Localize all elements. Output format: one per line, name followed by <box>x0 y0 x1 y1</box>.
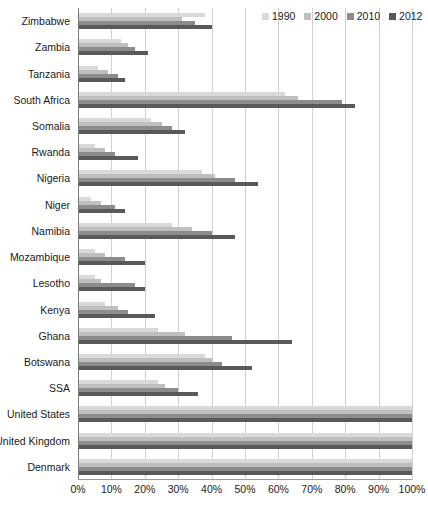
bar-group <box>78 454 412 480</box>
bar-group <box>78 60 412 86</box>
x-tick-60: 60% <box>268 484 289 495</box>
bar-denmark-2012 <box>78 471 412 475</box>
x-tick-40: 40% <box>201 484 222 495</box>
category-label-botswana: Botswana <box>24 357 70 368</box>
bar-united-states-2012 <box>78 418 412 422</box>
bar-nigeria-2012 <box>78 182 258 186</box>
gridline-100 <box>412 8 413 480</box>
bar-group <box>78 34 412 60</box>
bar-lesotho-2012 <box>78 287 145 291</box>
bar-mozambique-2012 <box>78 261 145 265</box>
bar-group <box>78 323 412 349</box>
legend-swatch-1990 <box>262 13 269 20</box>
bar-niger-2012 <box>78 209 125 213</box>
category-label-kenya: Kenya <box>40 304 70 315</box>
x-tick-90: 90% <box>368 484 389 495</box>
legend-swatch-2012 <box>389 13 396 20</box>
bar-group <box>78 244 412 270</box>
bar-group <box>78 139 412 165</box>
bar-namibia-2012 <box>78 235 235 239</box>
legend-entry-2010: 2010 <box>347 11 380 22</box>
legend-entry-2012: 2012 <box>389 11 422 22</box>
x-tick-80: 80% <box>335 484 356 495</box>
category-labels: ZimbabweZambiaTanzaniaSouth AfricaSomali… <box>0 8 74 480</box>
bar-zimbabwe-2012 <box>78 25 212 29</box>
category-label-tanzania: Tanzania <box>28 68 70 79</box>
x-tick-30: 30% <box>168 484 189 495</box>
bar-chart: 1990200020102012 ZimbabweZambiaTanzaniaS… <box>0 0 428 508</box>
legend-label-2010: 2010 <box>357 11 380 22</box>
bar-kenya-2012 <box>78 314 155 318</box>
bar-rwanda-2012 <box>78 156 138 160</box>
category-label-somalia: Somalia <box>32 121 70 132</box>
category-label-lesotho: Lesotho <box>33 278 70 289</box>
category-label-denmark: Denmark <box>27 462 70 473</box>
plot-area <box>78 8 412 480</box>
bar-group <box>78 192 412 218</box>
category-label-niger: Niger <box>45 199 70 210</box>
legend-entry-1990: 1990 <box>262 11 295 22</box>
category-label-united-states: United States <box>7 409 70 420</box>
x-tick-20: 20% <box>134 484 155 495</box>
bar-botswana-2012 <box>78 366 252 370</box>
category-label-namibia: Namibia <box>31 226 70 237</box>
bar-zambia-2012 <box>78 51 148 55</box>
legend-label-2012: 2012 <box>399 11 422 22</box>
bar-ssa-2012 <box>78 392 198 396</box>
legend-swatch-2010 <box>347 13 354 20</box>
legend-label-2000: 2000 <box>314 11 337 22</box>
category-label-zambia: Zambia <box>35 42 70 53</box>
bar-group <box>78 401 412 427</box>
legend-entry-2000: 2000 <box>304 11 337 22</box>
x-tick-0: 0% <box>70 484 85 495</box>
bar-ghana-2012 <box>78 340 292 344</box>
legend-label-1990: 1990 <box>272 11 295 22</box>
x-tick-70: 70% <box>301 484 322 495</box>
y-axis-line <box>78 8 79 480</box>
x-tick-10: 10% <box>101 484 122 495</box>
bar-group <box>78 87 412 113</box>
bar-group <box>78 428 412 454</box>
category-label-zimbabwe: Zimbabwe <box>22 16 70 27</box>
bar-united-kingdom-2012 <box>78 445 412 449</box>
category-label-mozambique: Mozambique <box>10 252 70 263</box>
x-axis-line <box>78 479 412 480</box>
chart-legend: 1990200020102012 <box>262 11 422 22</box>
bar-group <box>78 165 412 191</box>
bar-group <box>78 375 412 401</box>
category-label-ghana: Ghana <box>38 331 70 342</box>
legend-swatch-2000 <box>304 13 311 20</box>
bar-group <box>78 218 412 244</box>
category-label-south-africa: South Africa <box>13 95 70 106</box>
x-axis-tick-labels: 0%10%20%30%40%50%60%70%80%90%100% <box>0 484 428 502</box>
bar-rows <box>78 8 412 480</box>
category-label-ssa: SSA <box>49 383 70 394</box>
bar-group <box>78 270 412 296</box>
bar-group <box>78 349 412 375</box>
bar-somalia-2012 <box>78 130 185 134</box>
x-tick-50: 50% <box>234 484 255 495</box>
category-label-united-kingdom: United Kingdom <box>0 435 70 446</box>
bar-tanzania-2012 <box>78 78 125 82</box>
category-label-nigeria: Nigeria <box>37 173 70 184</box>
bar-group <box>78 296 412 322</box>
category-label-rwanda: Rwanda <box>31 147 70 158</box>
bar-group <box>78 113 412 139</box>
x-tick-100: 100% <box>399 484 426 495</box>
bar-south-africa-2012 <box>78 104 355 108</box>
